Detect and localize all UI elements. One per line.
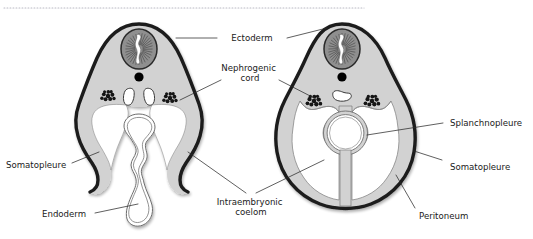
right-neural-tube <box>324 29 360 69</box>
right-embryo-panel <box>276 24 415 209</box>
leader-coelom-left <box>188 152 246 193</box>
label-nephrogenic-cord: Nephrogenic cord <box>221 63 278 83</box>
label-endoderm: Endoderm <box>42 209 86 219</box>
embryo-cross-section-diagram: Ectoderm Nephrogenic cord Somatopleure E… <box>0 0 533 239</box>
label-somatopleure-right: Somatopleure <box>450 162 510 172</box>
left-endoderm-gut-tube <box>124 114 155 226</box>
left-embryo-panel <box>76 24 202 226</box>
figure-root: Ectoderm Nephrogenic cord Somatopleure E… <box>0 0 533 239</box>
label-peritoneum: Peritoneum <box>419 211 468 221</box>
label-splanchnopleure: Splanchnopleure <box>450 118 522 128</box>
label-intraembryonic-coelom: Intraembryonic coelom <box>217 197 285 217</box>
left-notochord <box>134 72 143 81</box>
left-neural-tube <box>121 29 157 69</box>
left-dorsal-aorta-right <box>144 88 155 105</box>
label-ectoderm: Ectoderm <box>231 33 272 43</box>
right-gut-tube <box>324 111 368 155</box>
label-somatopleure-left: Somatopleure <box>6 160 66 170</box>
right-ventral-mesentery <box>340 150 351 206</box>
left-dorsal-aorta-left <box>123 88 134 105</box>
leader-peritoneum <box>396 175 415 208</box>
leader-somatopleure-right <box>414 151 442 160</box>
right-notochord <box>337 72 346 81</box>
